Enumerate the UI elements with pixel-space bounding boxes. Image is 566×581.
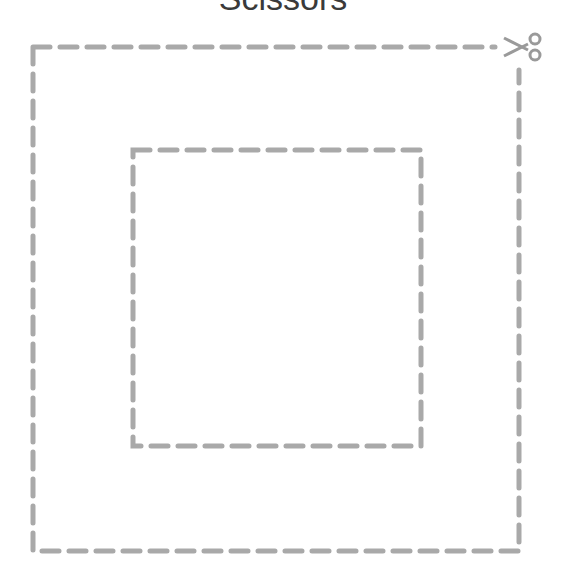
inner-cut-line <box>133 150 421 446</box>
cutting-worksheet <box>0 0 566 581</box>
scissors-icon <box>504 34 540 60</box>
outer-cut-line <box>33 47 519 551</box>
